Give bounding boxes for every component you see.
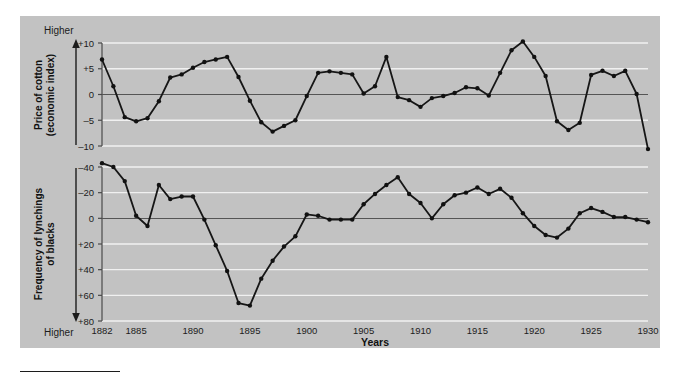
x-axis-group: 1882188518901895190019051910191519201925…	[91, 325, 658, 348]
bottom-y-tick-label: +20	[78, 239, 94, 250]
cotton-price-point	[361, 91, 365, 95]
top-y-tick-label: +10	[78, 38, 94, 49]
cotton-price-line	[102, 41, 648, 149]
cotton-price-point	[521, 39, 525, 43]
lynching-frequency-point	[248, 303, 252, 307]
bottom-y-tick-labels: –40–200+20+40+60+80	[78, 162, 94, 327]
lynching-frequency-line	[102, 163, 648, 305]
cotton-price-point	[134, 119, 138, 123]
x-tick-label: 1930	[637, 325, 658, 336]
lynching-frequency-point	[361, 202, 365, 206]
cotton-price-point	[327, 69, 331, 73]
cotton-price-point	[259, 120, 263, 124]
lynching-frequency-point	[100, 161, 104, 165]
cotton-price-point	[282, 124, 286, 128]
cotton-price-point	[350, 72, 354, 76]
cotton-price-point	[339, 71, 343, 75]
x-tick-label: 1890	[182, 325, 203, 336]
cotton-price-point	[157, 99, 161, 103]
lynching-frequency-point	[578, 211, 582, 215]
cotton-price-point	[305, 94, 309, 98]
dual-line-chart: +10+50–5–10 Higher Price of cotton (econ…	[20, 16, 660, 348]
lynching-frequency-point	[316, 214, 320, 218]
cotton-price-point	[248, 98, 252, 102]
lynching-frequency-point	[589, 206, 593, 210]
lynching-frequency-point	[543, 233, 547, 237]
lynching-frequency-point	[521, 211, 525, 215]
lynching-frequency-point	[134, 214, 138, 218]
lynching-frequency-point	[634, 217, 638, 221]
cotton-price-points	[100, 39, 650, 151]
lynching-frequency-point	[430, 216, 434, 220]
x-tick-label: 1885	[126, 325, 147, 336]
cotton-price-point	[498, 71, 502, 75]
top-axis-title-line2: (economic index)	[45, 54, 56, 136]
lynching-frequency-point	[646, 220, 650, 224]
cotton-price-point	[566, 128, 570, 132]
lynching-frequency-point	[191, 194, 195, 198]
cotton-price-point	[384, 55, 388, 59]
lynching-frequency-point	[327, 217, 331, 221]
cotton-price-point	[179, 72, 183, 76]
lynching-frequency-point	[214, 243, 218, 247]
lynching-frequency-point	[339, 217, 343, 221]
lynching-frequency-point	[407, 192, 411, 196]
x-axis-title: Years	[361, 336, 389, 348]
cotton-price-point	[293, 118, 297, 122]
cotton-price-point	[270, 129, 274, 133]
cotton-price-point	[236, 75, 240, 79]
lynching-frequency-point	[236, 301, 240, 305]
cotton-price-point	[555, 119, 559, 123]
lynching-frequency-point	[168, 197, 172, 201]
x-tick-label: 1905	[353, 325, 374, 336]
lynching-frequency-point	[418, 201, 422, 205]
cotton-price-point	[396, 95, 400, 99]
bottom-axis-title-line1: Frequency of lynchings	[33, 187, 44, 300]
lynching-frequency-point	[600, 210, 604, 214]
cotton-price-point	[202, 60, 206, 64]
lynching-frequency-point	[464, 190, 468, 194]
lynching-frequency-point	[384, 183, 388, 187]
lynching-frequency-point	[532, 224, 536, 228]
figure-panel: +10+50–5–10 Higher Price of cotton (econ…	[20, 16, 660, 348]
cotton-price-point	[100, 57, 104, 61]
lynching-frequency-point	[498, 187, 502, 191]
top-y-tick-labels: +10+50–5–10	[78, 38, 94, 152]
lynching-frequency-point	[612, 215, 616, 219]
x-tick-label: 1882	[91, 325, 112, 336]
bottom-y-tick-label: –40	[78, 162, 94, 173]
cotton-price-point	[145, 116, 149, 120]
cotton-price-point	[475, 86, 479, 90]
cotton-price-point	[509, 48, 513, 52]
bottom-gridlines	[98, 167, 648, 321]
footer-rule	[20, 371, 120, 372]
top-y-tick-label: –5	[83, 115, 94, 126]
cotton-price-point	[600, 69, 604, 73]
bottom-y-tick-label: 0	[89, 213, 94, 224]
cotton-price-point	[532, 55, 536, 59]
lynching-frequency-point	[509, 196, 513, 200]
bottom-higher-label: Higher	[44, 327, 74, 338]
cotton-price-point	[612, 74, 616, 78]
cotton-price-point	[487, 93, 491, 97]
bottom-panel-group: –40–200+20+40+60+80 Higher Frequency of …	[33, 161, 650, 338]
bottom-y-tick-label: +40	[78, 264, 94, 275]
lynching-frequency-point	[111, 165, 115, 169]
lynching-frequency-point	[157, 183, 161, 187]
cotton-price-point	[543, 74, 547, 78]
bottom-y-tick-label: –20	[78, 187, 94, 198]
lynching-frequency-point	[475, 185, 479, 189]
x-tick-label: 1925	[581, 325, 602, 336]
top-axis-title-line1: Price of cotton	[33, 60, 44, 130]
lynching-frequency-point	[452, 193, 456, 197]
lynching-frequency-point	[566, 226, 570, 230]
cotton-price-point	[430, 96, 434, 100]
cotton-price-point	[623, 69, 627, 73]
top-panel-group: +10+50–5–10 Higher Price of cotton (econ…	[33, 25, 650, 152]
x-tick-label: 1895	[239, 325, 260, 336]
lynching-frequency-point	[350, 217, 354, 221]
cotton-price-point	[373, 84, 377, 88]
lynching-frequency-point	[145, 224, 149, 228]
lynching-frequency-points	[100, 161, 650, 308]
cotton-price-point	[123, 115, 127, 119]
